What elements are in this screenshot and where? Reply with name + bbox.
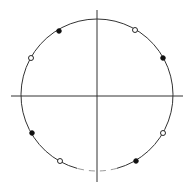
filled-point: [57, 29, 62, 34]
open-point: [133, 28, 138, 33]
filled-point: [30, 131, 35, 136]
circle-diagram: [0, 0, 189, 187]
filled-point: [161, 56, 166, 61]
open-point: [29, 56, 34, 61]
open-point: [161, 131, 166, 136]
open-point: [58, 159, 63, 164]
filled-point: [134, 159, 139, 164]
